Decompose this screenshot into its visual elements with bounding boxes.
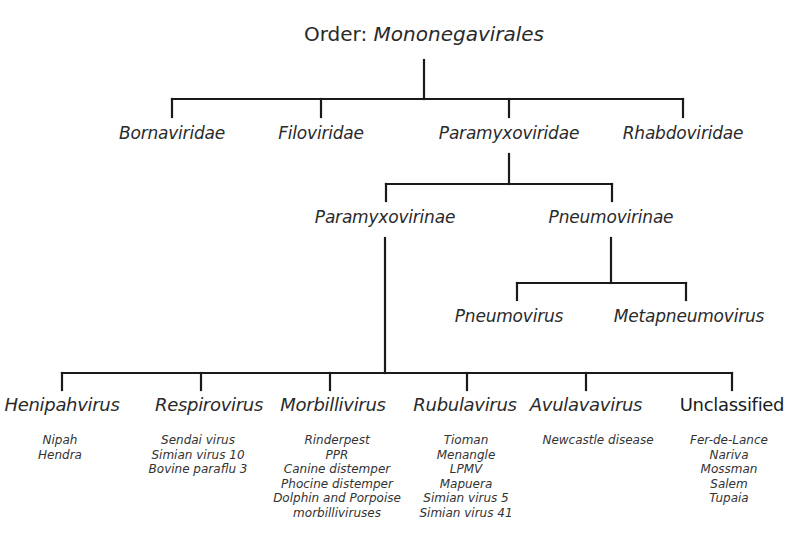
order-title: Order: Mononegavirales — [304, 22, 544, 46]
species-item: Mapuera — [419, 477, 512, 492]
species-list-respirovirus: Sendai virus Simian virus 10 Bovine para… — [149, 433, 248, 477]
species-list-rubulavirus: Tioman Menangle LPMV Mapuera Simian viru… — [419, 433, 512, 521]
species-item: Rinderpest — [273, 433, 401, 448]
species-item: Nariva — [690, 448, 768, 463]
species-item: Newcastle disease — [542, 433, 653, 448]
family-filoviridae: Filoviridae — [278, 123, 364, 143]
species-item: Fer-de-Lance — [690, 433, 768, 448]
order-label: Order: — [304, 22, 367, 46]
species-item: Dolphin and Porpoise — [273, 491, 401, 506]
species-item: Simian virus 5 — [419, 491, 512, 506]
genus-rubulavirus: Rubulavirus — [413, 394, 516, 415]
subfamily-paramyxovirinae: Paramyxovirinae — [315, 207, 455, 227]
species-item: Hendra — [38, 448, 82, 463]
genus-metapneumovirus: Metapneumovirus — [614, 306, 764, 326]
species-item: Sendai virus — [149, 433, 248, 448]
species-item: Menangle — [419, 448, 512, 463]
genus-morbillivirus: Morbillivirus — [280, 394, 385, 415]
family-rhabdoviridae: Rhabdoviridae — [623, 123, 744, 143]
order-name: Mononegavirales — [374, 22, 545, 46]
species-list-henipahvirus: Nipah Hendra — [38, 433, 82, 462]
connector-lines — [0, 0, 805, 554]
genus-henipahvirus: Henipahvirus — [4, 394, 119, 415]
species-item: Tupaia — [690, 491, 768, 506]
species-list-unclassified: Fer-de-Lance Nariva Mossman Salem Tupaia — [690, 433, 768, 506]
species-item: Simian virus 41 — [419, 506, 512, 521]
species-item: Tioman — [419, 433, 512, 448]
species-list-avulavavirus: Newcastle disease — [542, 433, 653, 448]
family-bornaviridae: Bornaviridae — [119, 123, 225, 143]
genus-pneumovirus: Pneumovirus — [455, 306, 563, 326]
species-item: Phocine distemper — [273, 477, 401, 492]
taxonomy-diagram: Order: Mononegavirales Bornaviridae Filo… — [0, 0, 805, 554]
species-item: Simian virus 10 — [149, 448, 248, 463]
genus-avulavavirus: Avulavavirus — [530, 394, 642, 415]
genus-respirovirus: Respirovirus — [155, 394, 263, 415]
species-item: morbilliviruses — [273, 506, 401, 521]
species-item: Mossman — [690, 462, 768, 477]
species-item: Salem — [690, 477, 768, 492]
species-item: PPR — [273, 448, 401, 463]
species-item: Canine distemper — [273, 462, 401, 477]
genus-unclassified: Unclassified — [680, 394, 785, 415]
species-item: Bovine paraflu 3 — [149, 462, 248, 477]
species-item: Nipah — [38, 433, 82, 448]
family-paramyxoviridae: Paramyxoviridae — [439, 123, 579, 143]
subfamily-pneumovirinae: Pneumovirinae — [549, 207, 674, 227]
species-list-morbillivirus: Rinderpest PPR Canine distemper Phocine … — [273, 433, 401, 521]
species-item: LPMV — [419, 462, 512, 477]
